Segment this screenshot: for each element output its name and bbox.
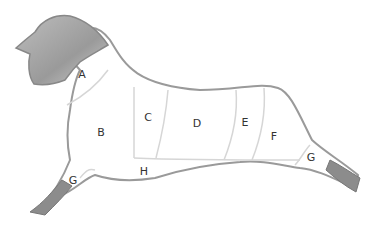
label-d: D: [193, 117, 201, 130]
front-hoof: [30, 180, 72, 215]
label-b: B: [97, 126, 105, 139]
label-g-rear: G: [307, 151, 316, 164]
label-g-front: G: [69, 174, 78, 187]
lamb-cuts-diagram: A B C D E F G G H: [0, 0, 369, 225]
label-h: H: [140, 165, 148, 178]
label-e: E: [242, 116, 249, 129]
label-f: F: [271, 130, 277, 143]
label-a: A: [78, 68, 86, 81]
label-c: C: [144, 111, 152, 124]
